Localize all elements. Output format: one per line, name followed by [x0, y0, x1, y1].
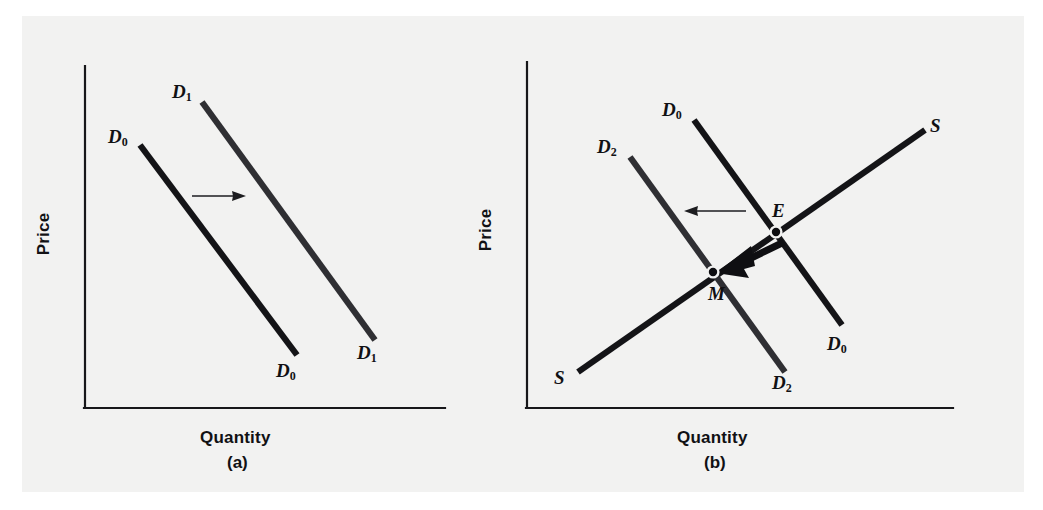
panel-b-point-m-dot [708, 267, 719, 278]
panel-b-point-label-m: M [708, 284, 725, 303]
panel-b-label-d0-bottom-sub: 0 [841, 342, 847, 356]
panel-a-y-axis-label: Price [34, 206, 54, 262]
panel-a-label-d0-bottom-text: D [276, 360, 290, 381]
panel-b-label-d2-bottom: D2 [772, 373, 792, 392]
panel-a-label-d1-bottom: D1 [357, 343, 377, 362]
panel-b-label-d0-bottom: D0 [827, 334, 847, 353]
panel-b-label-d0-top-sub: 0 [676, 108, 682, 122]
panel-a-label-d0-top-text: D [108, 126, 122, 147]
panel-b-label-d2-top-sub: 2 [611, 145, 617, 159]
panel-a-label-d0-bottom-sub: 0 [290, 369, 296, 383]
figure-root: Price Quantity (a) D0 D0 D1 D1 Price Qua… [0, 0, 1043, 510]
panel-a-caption: (a) [227, 453, 248, 473]
panel-a-label-d1-top: D1 [172, 82, 192, 101]
panel-a-label-d1-top-sub: 1 [186, 90, 192, 104]
panel-b-label-d2-top-text: D [597, 136, 611, 157]
panel-b-label-d2-bottom-text: D [772, 372, 786, 393]
panel-b-label-s-bottom: S [554, 368, 565, 387]
panel-b-label-d0-top: D0 [662, 100, 682, 119]
panel-a-label-d0-bottom: D0 [276, 361, 296, 380]
panel-b-label-d2-bottom-sub: 2 [786, 381, 792, 395]
panel-a-label-d0-top-sub: 0 [122, 135, 128, 149]
panel-a-label-d1-bottom-sub: 1 [371, 351, 377, 365]
panel-a-curve-d0 [140, 145, 297, 355]
panel-b-y-axis-label: Price [476, 202, 496, 258]
panel-a-x-axis-label: Quantity [200, 428, 271, 448]
panel-a-label-d1-bottom-text: D [357, 342, 371, 363]
panel-a-shift-arrow-head [232, 191, 246, 201]
panel-a-label-d1-top-text: D [172, 81, 186, 102]
panel-b-equilibrium-arrow-head [716, 246, 755, 278]
panel-b-caption: (b) [704, 453, 726, 473]
panel-b-label-d0-bottom-text: D [827, 333, 841, 354]
panel-b-point-label-e: E [772, 201, 785, 220]
panel-b-label-d0-top-text: D [662, 99, 676, 120]
figure-plate: Price Quantity (a) D0 D0 D1 D1 Price Qua… [22, 16, 1024, 492]
panel-a-label-d0-top: D0 [108, 127, 128, 146]
panel-a-curve-d1 [202, 102, 375, 340]
panel-b-label-d2-top: D2 [597, 137, 617, 156]
panel-b-shift-arrow-head [684, 206, 698, 216]
panel-b-x-axis-label: Quantity [677, 428, 748, 448]
panel-b-label-s-top: S [930, 116, 941, 135]
panel-b-curve-d2 [630, 157, 785, 372]
panel-b-point-e-dot [771, 227, 782, 238]
